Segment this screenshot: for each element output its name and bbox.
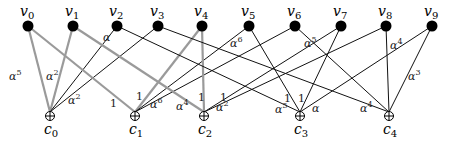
variable-node-v4: v4 — [194, 3, 208, 32]
variable-nodes-layer: v0v1v2v3v4v5v6v7v8v9 — [20, 3, 438, 32]
edge-weight-label: α3 — [408, 68, 421, 83]
edge-weight-label: α5 — [304, 35, 317, 50]
edge-weight-label: α2 — [216, 99, 229, 114]
variable-node-label: v1 — [65, 3, 79, 21]
variable-node-v0: v0 — [20, 3, 34, 32]
check-node-label: c2 — [198, 121, 212, 139]
edge-weight-label: α2 — [68, 92, 81, 107]
check-node-label: c0 — [44, 121, 58, 139]
variable-node-label: v8 — [378, 3, 392, 21]
check-node-c4: c4 — [383, 112, 397, 140]
variable-node-label: v9 — [424, 3, 438, 21]
edge-v8-c4 — [386, 26, 389, 112]
edge-weight-label: α2 — [46, 68, 59, 83]
node-dot — [23, 21, 34, 32]
node-dot — [197, 21, 208, 32]
node-dot — [381, 21, 392, 32]
edge-weight-label: α4 — [176, 98, 189, 113]
check-node-label: c4 — [383, 121, 397, 139]
edge-weight-label: 1 — [198, 91, 205, 104]
edge-weight-label: α — [312, 102, 320, 115]
variable-node-v7: v7 — [333, 3, 347, 32]
variable-node-v8: v8 — [378, 3, 392, 32]
variable-node-label: v0 — [20, 3, 34, 21]
edge-weight-label: 1 — [110, 97, 117, 110]
variable-node-label: v3 — [150, 3, 164, 21]
node-dot — [336, 21, 347, 32]
node-dot — [290, 21, 301, 32]
edge-weight-label: α4 — [390, 37, 403, 52]
variable-node-label: v6 — [287, 3, 301, 21]
edge-weight-label: α5 — [9, 68, 22, 83]
edge-v0-c0 — [28, 26, 50, 112]
variable-node-v2: v2 — [109, 3, 123, 32]
check-node-label: c3 — [294, 121, 308, 139]
edge-v0-c1 — [28, 26, 135, 112]
check-node-c1: c1 — [129, 112, 143, 140]
graph-svg: v0v1v2v3v4v5v6v7v8v9 c0c1c2c3c4 α5α2αα21… — [0, 0, 460, 141]
node-dot — [153, 21, 164, 32]
variable-node-label: v5 — [241, 3, 255, 21]
variable-node-v9: v9 — [424, 3, 438, 32]
edge-weight-label: 1 — [136, 90, 143, 103]
check-node-label: c1 — [129, 121, 143, 139]
check-node-c2: c2 — [198, 112, 212, 140]
check-node-c3: c3 — [294, 112, 308, 140]
node-dot — [244, 21, 255, 32]
variable-node-v3: v3 — [150, 3, 164, 32]
node-dot — [427, 21, 438, 32]
node-dot — [68, 21, 79, 32]
edge-weight-label: 1 — [298, 92, 305, 105]
variable-node-label: v4 — [194, 3, 208, 21]
check-node-c0: c0 — [44, 112, 58, 140]
edge-weight-label: α5 — [275, 101, 288, 116]
node-dot — [112, 21, 123, 32]
edge-weight-label: α — [103, 31, 111, 44]
edge-weight-label: α4 — [360, 100, 373, 115]
variable-node-label: v2 — [109, 3, 123, 21]
edge-weight-label: α6 — [150, 96, 163, 111]
edge-weight-label: α6 — [230, 35, 243, 50]
variable-node-label: v7 — [333, 3, 347, 21]
variable-node-v6: v6 — [287, 3, 301, 32]
check-nodes-layer: c0c1c2c3c4 — [44, 112, 397, 140]
tanner-graph-diagram: v0v1v2v3v4v5v6v7v8v9 c0c1c2c3c4 α5α2αα21… — [0, 0, 460, 141]
variable-node-v1: v1 — [65, 3, 79, 32]
variable-node-v5: v5 — [241, 3, 255, 32]
